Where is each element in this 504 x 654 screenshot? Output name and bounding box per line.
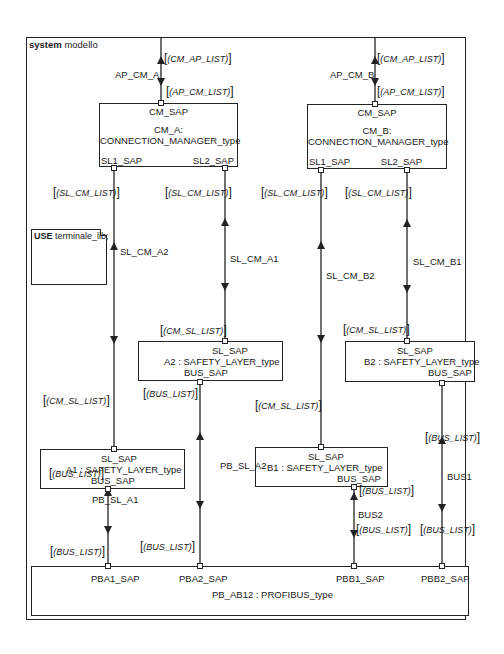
channel-pb-sl-a2-label: PB_SL_A2 xyxy=(220,460,266,471)
cm-b-cm-sap-port[interactable] xyxy=(372,101,378,107)
sl-cm-b1-signal-top: [(SL_CM_LIST)] xyxy=(345,186,412,199)
sl-cm-a2-signal-bottom: [(CM_SL_LIST)] xyxy=(43,394,110,407)
a1-bus-sap-port[interactable] xyxy=(105,486,111,492)
b2-name: B2 : SAFETY_LAYER_type xyxy=(364,356,479,367)
cm-b-port-left-label: SL1_SAP xyxy=(309,156,350,167)
channel-sl-cm-a2-label: SL_CM_A2 xyxy=(120,246,169,257)
note-keyword: USE xyxy=(34,231,53,241)
b2-bus-sap-port[interactable] xyxy=(439,380,445,386)
cm-b-sl2-sap-port[interactable] xyxy=(404,167,410,173)
block-cm-b[interactable]: CM_SAP CM_B: CONNECTION_MANAGER_type SL1… xyxy=(307,104,447,169)
cm-a-port-left-label: SL1_SAP xyxy=(101,155,142,166)
channel-ap-cm-b-label: AP_CM_B xyxy=(330,69,374,80)
a2-name: A2 : SAFETY_LAYER_type xyxy=(164,356,279,367)
block-b1[interactable]: SL_SAP B1 : SAFETY_LAYER_type BUS_SAP xyxy=(255,447,388,487)
sl-cm-b2-signal-bottom: [(CM_SL_LIST)] xyxy=(255,399,322,412)
b1-name: B1 : SAFETY_LAYER_type xyxy=(267,462,382,473)
pb-pba1-sap-port[interactable] xyxy=(105,563,111,569)
ap-cm-b-signal-in: [(CM_AP_LIST)] xyxy=(377,52,445,65)
sl-cm-b2-signal-top: [(SL_CM_LIST)] xyxy=(261,186,328,199)
a1-sl-sap-port[interactable] xyxy=(111,446,117,452)
ap-cm-b-signal-out: [(AP_CM_LIST)] xyxy=(377,85,445,98)
block-a2[interactable]: SL_SAP A2 : SAFETY_LAYER_type BUS_SAP xyxy=(138,341,283,381)
cm-a-name: CM_A: xyxy=(100,124,237,135)
bus1-signal-bottom: [(BUS_LIST)] xyxy=(420,523,475,536)
b1-sl-sap-port[interactable] xyxy=(318,444,324,450)
channel-sl-cm-b1-label: SL_CM_B1 xyxy=(413,256,462,267)
cm-a-port-top-label: CM_SAP xyxy=(100,106,237,117)
use-note: USE terminale_lib; xyxy=(31,229,107,285)
note-text: USE terminale_lib; xyxy=(34,231,109,241)
a1-port-top-label: SL_SAP xyxy=(101,453,137,464)
channel-pb-sl-a1-label: PB_SL_A1 xyxy=(92,494,138,505)
bus2-signal-top: [(BUS_LIST)] xyxy=(359,484,414,497)
cm-b-name: CM_B: xyxy=(308,125,446,136)
channel-ap-cm-a-label: AP_CM_A xyxy=(115,69,159,80)
pb-name: PB_AB12 : PROFIBUS_type xyxy=(212,589,333,600)
b2-port-top-label: SL_SAP xyxy=(397,345,433,356)
a2-sl-sap-port[interactable] xyxy=(222,338,228,344)
channel-bus2-label: BUS2 xyxy=(358,509,383,520)
a2-port-bottom-label: BUS_SAP xyxy=(184,367,228,378)
sl-cm-a2-signal-top: [(SL_CM_LIST)] xyxy=(53,186,120,199)
a2-bus-sap-port[interactable] xyxy=(197,379,203,385)
block-b2[interactable]: SL_SAP B2 : SAFETY_LAYER_type BUS_SAP xyxy=(345,341,475,382)
note-library: terminale_lib; xyxy=(55,231,109,241)
cm-a-sl2-sap-port[interactable] xyxy=(222,165,228,171)
pb-sl-a2-signal-bottom: [(BUS_LIST)] xyxy=(140,540,195,553)
cm-b-port-right-label: SL2_SAP xyxy=(381,156,422,167)
cm-b-type: CONNECTION_MANAGER_type xyxy=(308,136,446,147)
bus2-signal-bottom: [(BUS_LIST)] xyxy=(356,523,411,536)
b1-port-top-label: SL_SAP xyxy=(308,451,344,462)
pb-sl-a1-signal-bottom: [(BUS_LIST)] xyxy=(50,545,105,558)
b1-bus-sap-port[interactable] xyxy=(351,484,357,490)
sl-cm-a1-signal-bottom: [(CM_SL_LIST)] xyxy=(160,324,227,337)
pb-sl-a2-signal-top: [(BUS_LIST)] xyxy=(143,387,198,400)
cm-a-cm-sap-port[interactable] xyxy=(158,100,164,106)
pb-pbb1-sap-port[interactable] xyxy=(351,563,357,569)
pb-port-pbb2-label: PBB2_SAP xyxy=(421,573,470,584)
sl-cm-a1-signal-top: [(SL_CM_LIST)] xyxy=(165,186,232,199)
b2-port-bottom-label: BUS_SAP xyxy=(428,367,472,378)
cm-b-sl1-sap-port[interactable] xyxy=(318,167,324,173)
cm-b-port-top-label: CM_SAP xyxy=(308,107,446,118)
cm-a-sl1-sap-port[interactable] xyxy=(111,165,117,171)
channel-sl-cm-b2-label: SL_CM_B2 xyxy=(326,270,375,281)
pb-sl-a1-signal-top: [(BUS_LIST)] xyxy=(49,467,104,480)
bus1-signal-top: [(BUS_LIST)] xyxy=(425,431,480,444)
block-pb-ab12[interactable]: PBA1_SAP PBA2_SAP PBB1_SAP PBB2_SAP PB_A… xyxy=(31,566,469,616)
pb-pba2-sap-port[interactable] xyxy=(197,563,203,569)
pb-port-pbb1-label: PBB1_SAP xyxy=(336,573,385,584)
channel-bus1-label: BUS1 xyxy=(447,471,472,482)
channel-sl-cm-a1-label: SL_CM_A1 xyxy=(230,253,279,264)
b2-sl-sap-port[interactable] xyxy=(404,338,410,344)
sl-cm-b1-signal-bottom: [(CM_SL_LIST)] xyxy=(343,323,410,336)
block-cm-a[interactable]: CM_SAP CM_A: CONNECTION_MANAGER_type SL1… xyxy=(99,103,238,167)
pb-port-pba1-label: PBA1_SAP xyxy=(91,573,140,584)
ap-cm-a-signal-in: [(CM_AP_LIST)] xyxy=(164,52,232,65)
pb-port-pba2-label: PBA2_SAP xyxy=(179,573,228,584)
ap-cm-a-signal-out: [(AP_CM_LIST)] xyxy=(166,85,234,98)
a2-port-top-label: SL_SAP xyxy=(212,345,248,356)
cm-a-type: CONNECTION_MANAGER_type xyxy=(100,135,237,146)
pb-pbb2-sap-port[interactable] xyxy=(439,563,445,569)
